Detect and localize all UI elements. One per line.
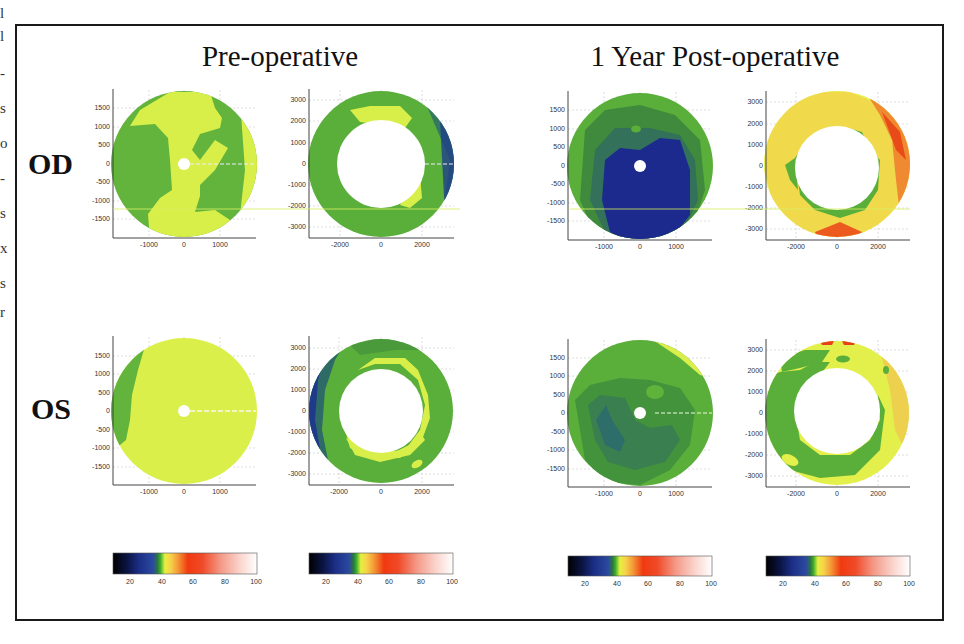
- x-tick: 1000: [212, 488, 228, 495]
- y-tick: 1500: [94, 104, 110, 111]
- y-tick: 1500: [94, 352, 110, 359]
- y-tick: 500: [98, 389, 110, 396]
- plot-od-post-ring: 3000 2000 1000 0 -1000 -2000 -3000 -2000…: [745, 88, 920, 250]
- x-tick: 0: [835, 243, 839, 250]
- y-tick: -1000: [745, 183, 763, 190]
- y-tick: 3000: [290, 96, 306, 103]
- x-tick: -1000: [595, 490, 613, 497]
- plot-od-pre-disk: 1500 1000 500 0 -500 -1000 -1500 -1000 0…: [92, 89, 262, 248]
- y-tick: 0: [106, 407, 110, 414]
- y-tick: 0: [759, 409, 763, 416]
- colorbar-tick: 60: [842, 580, 850, 587]
- x-tick: 0: [182, 241, 186, 248]
- x-tick: 2000: [870, 490, 886, 497]
- x-tick: 2000: [414, 488, 430, 495]
- y-tick: -1000: [288, 428, 306, 435]
- y-tick: -1500: [547, 465, 565, 472]
- y-tick: 3000: [747, 98, 763, 105]
- y-tick: 0: [759, 162, 763, 169]
- y-tick: 1500: [549, 354, 565, 361]
- plot-os-post-ring: 3000 2000 1000 0 -1000 -2000 -3000 -2000…: [745, 335, 920, 497]
- colorbar-pre-ring: 20 40 60 80 100: [309, 553, 458, 585]
- x-tick: -1000: [140, 241, 158, 248]
- colorbar-tick: 20: [779, 580, 787, 587]
- colorbar-tick: 100: [250, 578, 262, 585]
- y-tick: 500: [98, 141, 110, 148]
- y-tick: 1000: [747, 141, 763, 148]
- y-tick: -500: [96, 426, 110, 433]
- colorbar-tick: 20: [322, 578, 330, 585]
- colorbar-tick: 40: [613, 580, 621, 587]
- y-tick: 1000: [290, 386, 306, 393]
- x-tick: 2000: [414, 241, 430, 248]
- y-tick: -1500: [547, 217, 565, 224]
- colorbar-pre-disk: 20 40 60 80 100: [113, 553, 262, 585]
- x-tick: 1000: [668, 490, 684, 497]
- y-tick: 0: [106, 160, 110, 167]
- colorbar-tick: 40: [811, 580, 819, 587]
- y-tick: -1000: [547, 199, 565, 206]
- y-tick: 500: [553, 143, 565, 150]
- y-tick: -1000: [547, 446, 565, 453]
- y-tick: 1000: [94, 123, 110, 130]
- x-tick: 0: [182, 488, 186, 495]
- y-tick: -500: [551, 180, 565, 187]
- colorbar-post-disk: 20 40 60 80 100: [568, 556, 717, 587]
- colorbar-tick: 80: [221, 578, 229, 585]
- x-tick: 1000: [212, 241, 228, 248]
- y-tick: -1000: [92, 444, 110, 451]
- colorbar-post-ring: 20 40 60 80 100: [766, 556, 915, 587]
- x-tick: 0: [379, 488, 383, 495]
- x-tick: 0: [638, 243, 642, 250]
- x-tick: 2000: [870, 243, 886, 250]
- y-tick: -2000: [745, 451, 763, 458]
- y-tick: -2000: [745, 204, 763, 211]
- x-tick: -1000: [595, 243, 613, 250]
- colorbar-tick: 40: [354, 578, 362, 585]
- colorbar-tick: 60: [189, 578, 197, 585]
- colorbar-tick: 60: [644, 580, 652, 587]
- colorbar-tick: 20: [581, 580, 589, 587]
- y-tick: 500: [553, 391, 565, 398]
- colorbar-tick: 100: [903, 580, 915, 587]
- y-tick: 0: [561, 162, 565, 169]
- x-tick: 1000: [668, 243, 684, 250]
- y-tick: 1000: [549, 125, 565, 132]
- y-tick: -500: [551, 428, 565, 435]
- colorbar-tick: 80: [874, 580, 882, 587]
- colorbar-tick: 40: [158, 578, 166, 585]
- y-tick: 0: [302, 160, 306, 167]
- x-tick: -2000: [330, 488, 348, 495]
- y-tick: -2000: [288, 449, 306, 456]
- x-tick: -1000: [140, 488, 158, 495]
- plot-os-pre-ring: 3000 2000 1000 0 -1000 -2000 -3000 -2000…: [288, 335, 460, 495]
- y-tick: -1000: [288, 181, 306, 188]
- plot-os-post-disk: 1500 1000 500 0 -500 -1000 -1500 -1000 0…: [547, 335, 720, 497]
- y-tick: -1000: [745, 430, 763, 437]
- plots-canvas: 1500 1000 500 0 -500 -1000 -1500 -1000 0…: [0, 0, 964, 644]
- y-tick: 3000: [747, 346, 763, 353]
- y-tick: 2000: [290, 365, 306, 372]
- colorbar-tick: 60: [385, 578, 393, 585]
- colorbar-tick: 100: [446, 578, 458, 585]
- colorbar-tick: 20: [126, 578, 134, 585]
- x-tick: -2000: [787, 243, 805, 250]
- y-tick: -3000: [745, 472, 763, 479]
- y-tick: 0: [561, 409, 565, 416]
- x-tick: -2000: [331, 241, 349, 248]
- y-tick: -1000: [92, 197, 110, 204]
- y-tick: 1000: [290, 139, 306, 146]
- x-tick: -2000: [787, 490, 805, 497]
- x-tick: 0: [638, 490, 642, 497]
- y-tick: 1500: [549, 106, 565, 113]
- colorbar-tick: 80: [676, 580, 684, 587]
- y-tick: -3000: [745, 225, 763, 232]
- plot-od-pre-ring: 3000 2000 1000 0 -1000 -2000 -3000 -2000…: [288, 88, 460, 248]
- y-tick: 1000: [94, 370, 110, 377]
- y-tick: 2000: [290, 117, 306, 124]
- y-tick: 3000: [290, 344, 306, 351]
- y-tick: 0: [302, 407, 306, 414]
- y-tick: 1000: [747, 388, 763, 395]
- plot-os-pre-disk: 1500 1000 500 0 -500 -1000 -1500 -1000 0…: [92, 336, 260, 495]
- plot-od-post-disk: 1500 1000 500 0 -500 -1000 -1500 -1000 0…: [547, 90, 720, 250]
